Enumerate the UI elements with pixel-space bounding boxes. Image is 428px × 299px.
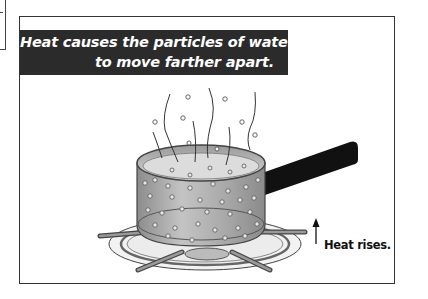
steam-particles: [153, 95, 257, 151]
heat-rises-label: Heat rises.: [324, 238, 391, 252]
up-arrow-icon: [313, 218, 320, 244]
boiling-pot-illustration: [0, 0, 428, 299]
burner-flame-ring: [185, 248, 229, 260]
saucepan: [137, 145, 265, 246]
pot-handle: [262, 142, 358, 195]
